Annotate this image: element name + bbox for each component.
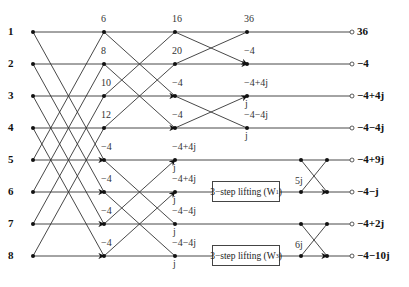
stage2-value: −4−4j <box>172 206 196 216</box>
input-label: 6 <box>8 186 14 197</box>
stage2-value: −4+4j <box>172 174 196 184</box>
multiplier-label: 6j <box>295 240 303 250</box>
stage3-value: −4 <box>244 46 255 56</box>
input-label: 4 <box>8 122 14 133</box>
output-label: −4+9j <box>357 154 384 165</box>
input-label: 8 <box>8 250 14 261</box>
stage2-value: 16 <box>172 14 182 24</box>
input-label: 2 <box>8 58 14 69</box>
stage2-value: −4 <box>172 110 183 120</box>
stage1-horizontal-edges <box>33 32 104 256</box>
stage1-value: −4 <box>101 142 112 152</box>
output-label: −4−4j <box>357 122 384 133</box>
output-label: 36 <box>357 26 368 37</box>
stage1-value: −4 <box>101 174 112 184</box>
lifting-block-w3: 3−step lifting (W3) <box>212 245 280 266</box>
output-label: −4+4j <box>357 90 384 101</box>
input-label: 3 <box>8 90 14 101</box>
stage2-value: 20 <box>172 46 182 56</box>
fft-flow-graph <box>0 0 409 287</box>
twiddle-label: j <box>173 227 176 237</box>
output-label: −4−10j <box>357 250 390 261</box>
output-label: −4+2j <box>357 218 384 229</box>
stage3-value: −4+4j <box>244 78 268 88</box>
stage2-horizontal-edges <box>104 32 175 256</box>
stage1-value: 8 <box>101 46 106 56</box>
stage3-value: 36 <box>244 14 254 24</box>
output-terminals <box>350 30 354 258</box>
input-label: 5 <box>8 154 14 165</box>
twiddle-label: j <box>173 163 176 173</box>
stage1-value: −4 <box>101 238 112 248</box>
twiddle-label: j <box>245 131 248 141</box>
twiddle-label: j <box>173 195 176 205</box>
output-edges <box>175 32 350 256</box>
lifting-block-w1: 3−step lifting (W1) <box>212 181 280 202</box>
stage1-value: 6 <box>101 14 106 24</box>
output-label: −4 <box>357 58 369 69</box>
stage2-value: −4 <box>172 78 183 88</box>
stage1-value: 10 <box>101 78 111 88</box>
stage1-value: −4 <box>101 206 112 216</box>
multiplier-label: 5j <box>295 176 303 186</box>
twiddle-label: j <box>245 99 248 109</box>
stage2-cross-edges <box>104 32 175 256</box>
stage3-edges <box>175 32 247 128</box>
output-label: −4−j <box>357 186 379 197</box>
twiddle-label: j <box>173 259 176 269</box>
stage2-value: −4−4j <box>172 238 196 248</box>
stage1-cross-edges <box>33 32 104 256</box>
input-label: 1 <box>8 26 14 37</box>
stage2-value: −4+4j <box>172 142 196 152</box>
stage3-value: −4−4j <box>244 110 268 120</box>
stage1-value: 12 <box>101 110 111 120</box>
input-label: 7 <box>8 218 14 229</box>
